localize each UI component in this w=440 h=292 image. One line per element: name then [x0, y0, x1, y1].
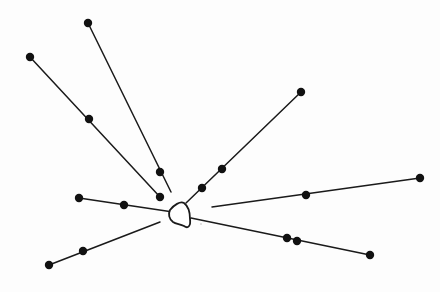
ray-right-node	[302, 191, 310, 199]
central-body	[169, 202, 190, 227]
ray-lower-right-node	[366, 251, 374, 259]
ray-lower-right-node	[283, 234, 291, 242]
ray-left-node	[120, 201, 128, 209]
ray-upper-left-node	[156, 193, 164, 201]
ray-lower-right-line	[191, 218, 370, 255]
ray-left-node	[75, 194, 83, 202]
ray-upper-right-node	[198, 184, 206, 192]
ray-upper-right-node	[297, 88, 305, 96]
ray-lower-left-node	[45, 261, 53, 269]
ray-lower-right-node	[293, 237, 301, 245]
ray-right-line	[212, 178, 420, 207]
ray-upper-left-node	[85, 115, 93, 123]
nodes-group	[26, 19, 424, 269]
diagram-canvas	[0, 0, 440, 292]
ray-upper-left-line	[30, 57, 160, 197]
rays-group	[30, 23, 420, 265]
ray-right-node	[416, 174, 424, 182]
ray-lower-left-node	[79, 247, 87, 255]
ray-lower-left-line	[49, 222, 160, 265]
ray-upper-left-node	[26, 53, 34, 61]
ray-upper-left-steep-node	[156, 168, 164, 176]
ray-upper-right-node	[218, 165, 226, 173]
stray-mark	[200, 223, 202, 225]
stray-marks-group	[200, 223, 202, 225]
radial-line-diagram	[0, 0, 440, 292]
ray-upper-left-steep-line	[88, 23, 171, 192]
ray-upper-left-steep-node	[84, 19, 92, 27]
